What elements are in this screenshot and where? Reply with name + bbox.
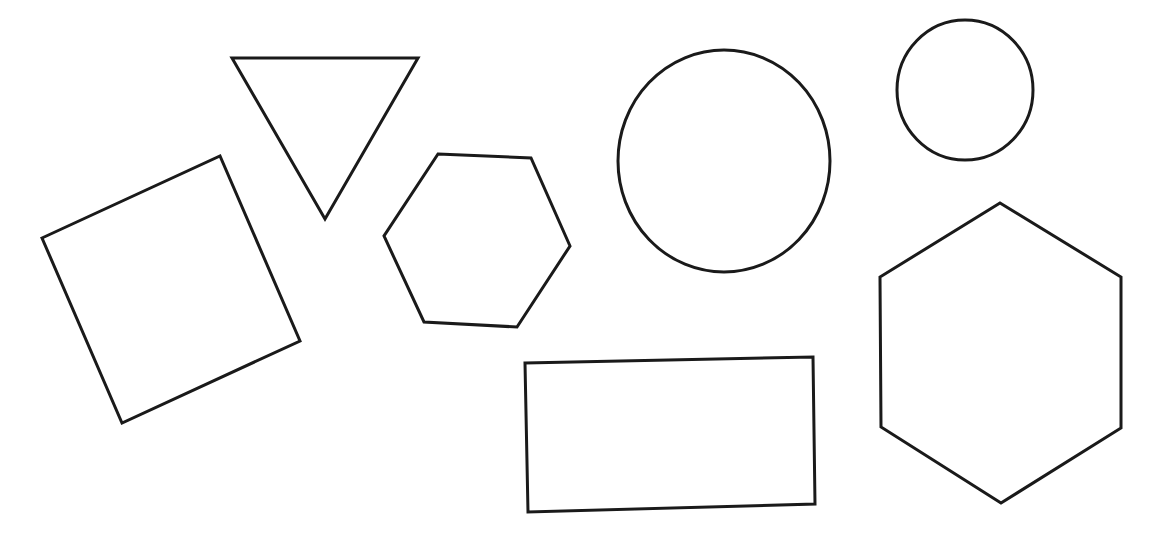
large-hexagon-shape xyxy=(880,203,1121,503)
square-shape xyxy=(42,156,300,423)
triangle-shape xyxy=(232,58,418,219)
rectangle-shape xyxy=(525,357,815,512)
small-circle-shape xyxy=(897,20,1033,160)
small-hexagon-shape xyxy=(384,154,570,327)
shapes-canvas xyxy=(0,0,1155,555)
large-circle-shape xyxy=(618,50,830,272)
